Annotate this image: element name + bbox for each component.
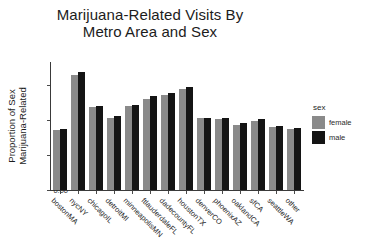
bar-group — [197, 118, 211, 190]
bar-group — [107, 116, 121, 190]
y-axis-title-line1: Proportion of Sex — [6, 87, 17, 165]
y-tick-mark — [47, 155, 50, 156]
legend-swatch-male — [312, 131, 325, 144]
x-tick-mark — [132, 191, 133, 194]
chart-title: Marijuana-Related Visits By Metro Area a… — [0, 6, 300, 40]
legend-label-male: male — [329, 133, 345, 142]
y-tick-mark — [47, 190, 50, 191]
legend-entry-female: female — [312, 116, 372, 129]
y-axis-title: Proportion of Sex Marijuana-Related — [2, 58, 32, 193]
x-tick-mark — [222, 191, 223, 194]
bar-female — [125, 106, 132, 190]
x-axis-line — [50, 190, 304, 191]
bar-male — [168, 93, 175, 190]
legend-entries: femalemale — [312, 116, 372, 144]
x-tick-mark — [258, 191, 259, 194]
bar-group — [161, 93, 175, 190]
x-tick-mark — [294, 191, 295, 194]
bar-group — [89, 106, 103, 190]
bar-female — [179, 89, 186, 190]
bar-group — [233, 123, 247, 190]
chart-container: Marijuana-Related Visits By Metro Area a… — [0, 0, 373, 251]
legend-swatch-female — [312, 116, 325, 129]
bar-male — [150, 96, 157, 190]
bar-female — [287, 129, 294, 190]
bar-male — [60, 129, 67, 190]
bar-group — [179, 87, 193, 190]
x-tick-mark — [204, 191, 205, 194]
bar-group — [269, 126, 283, 190]
x-tick-mark — [168, 191, 169, 194]
bar-female — [197, 118, 204, 190]
y-tick-mark — [47, 120, 50, 121]
bar-male — [96, 106, 103, 190]
bar-male — [114, 116, 121, 190]
bar-female — [233, 125, 240, 190]
x-tick-mark — [96, 191, 97, 194]
legend-entry-male: male — [312, 131, 372, 144]
bar-male — [186, 87, 193, 190]
bar-female — [215, 119, 222, 190]
y-axis-title-line2: Marijuana-Related — [17, 87, 28, 165]
legend-label-female: female — [329, 118, 352, 127]
legend-title: sex — [312, 103, 372, 112]
x-tick-mark — [60, 191, 61, 194]
x-tick-mark — [114, 191, 115, 194]
legend: sex femalemale — [312, 103, 372, 146]
bar-male — [78, 72, 85, 190]
bar-male — [258, 119, 265, 190]
bar-male — [240, 123, 247, 190]
bar-female — [269, 127, 276, 190]
bar-group — [53, 129, 67, 190]
bar-male — [222, 118, 229, 190]
bar-male — [276, 126, 283, 190]
bar-female — [161, 95, 168, 190]
bar-female — [53, 130, 60, 190]
bar-female — [143, 99, 150, 190]
x-tick-mark — [240, 191, 241, 194]
bar-male — [132, 105, 139, 190]
x-tick-mark — [150, 191, 151, 194]
bar-female — [89, 107, 96, 190]
bar-group — [143, 96, 157, 190]
x-tick-mark — [78, 191, 79, 194]
x-tick-mark — [276, 191, 277, 194]
bar-group — [215, 118, 229, 190]
bar-group — [71, 72, 85, 190]
bar-group — [287, 128, 301, 190]
bar-female — [251, 121, 258, 190]
x-tick-mark — [186, 191, 187, 194]
bar-group — [251, 119, 265, 190]
bar-male — [294, 128, 301, 190]
plot-area — [51, 62, 303, 190]
bar-male — [204, 118, 211, 190]
bar-female — [107, 118, 114, 190]
bar-group — [125, 105, 139, 190]
bar-female — [71, 75, 78, 190]
y-tick-mark — [47, 85, 50, 86]
